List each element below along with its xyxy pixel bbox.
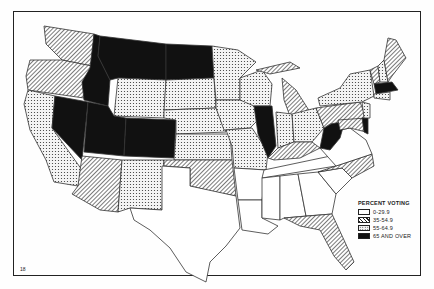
- state-ms: [262, 176, 280, 220]
- state-mt: [98, 36, 166, 80]
- legend-label: 55-64.9: [373, 225, 393, 231]
- page-number: 18: [20, 266, 26, 272]
- state-co: [124, 118, 176, 158]
- state-sd: [164, 78, 216, 110]
- state-ks: [174, 134, 232, 160]
- swatch-dotted-icon: [358, 225, 370, 231]
- state-ny: [318, 70, 374, 106]
- state-ar: [234, 168, 266, 200]
- swatch-black-icon: [358, 233, 370, 239]
- map-legend: PERCENT VOTING 0-29.9 35-54.9 55-64.9 65…: [358, 200, 411, 240]
- state-az: [72, 156, 122, 212]
- swatch-white-icon: [358, 209, 370, 215]
- state-wi: [240, 70, 272, 106]
- state-wy: [114, 78, 166, 118]
- legend-label: 65 AND OVER: [373, 233, 411, 239]
- state-nm: [118, 160, 164, 212]
- legend-label: 0-29.9: [373, 209, 390, 215]
- legend-item-55-64: 55-64.9: [358, 224, 411, 232]
- state-fl: [284, 214, 354, 270]
- us-voting-map: [0, 0, 434, 289]
- state-me: [384, 38, 406, 82]
- legend-item-35-54: 35-54.9: [358, 216, 411, 224]
- swatch-hatched-icon: [358, 217, 370, 223]
- legend-item-0-29: 0-29.9: [358, 208, 411, 216]
- legend-title: PERCENT VOTING: [358, 200, 411, 206]
- legend-item-65-over: 65 AND OVER: [358, 232, 411, 240]
- legend-label: 35-54.9: [373, 217, 393, 223]
- state-nd: [166, 44, 214, 80]
